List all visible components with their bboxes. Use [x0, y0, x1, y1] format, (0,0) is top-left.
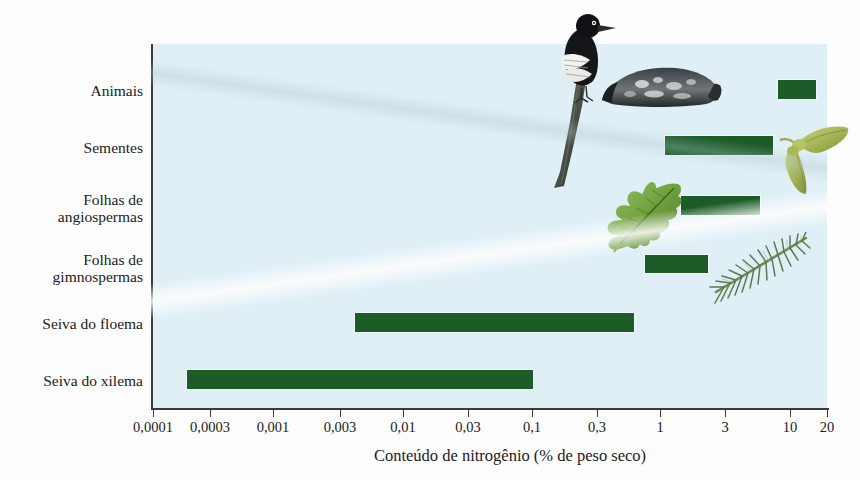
xtick-mark-9	[725, 409, 726, 417]
bar-folhas-angiospermas	[681, 196, 760, 215]
xtick-label-1: 0,0003	[190, 419, 230, 436]
xtick-mark-3	[340, 409, 341, 417]
seal-illustration	[596, 56, 724, 118]
samara-illustration	[772, 112, 858, 200]
xtick-mark-11	[827, 409, 828, 417]
xtick-mark-10	[790, 409, 791, 417]
xtick-label-8: 1	[656, 419, 663, 436]
xtick-mark-8	[660, 409, 661, 417]
xtick-label-10: 10	[783, 419, 798, 436]
bar-sementes	[665, 136, 773, 155]
xtick-label-9: 3	[721, 419, 728, 436]
xtick-label-2: 0,001	[257, 419, 290, 436]
bar-seiva-xilema	[187, 370, 533, 389]
xtick-mark-7	[597, 409, 598, 417]
x-axis-title: Conteúdo de nitrogênio (% de peso seco)	[0, 446, 860, 466]
ylabel-folhas-gimnospermas: Folhas de gimnospermas	[53, 251, 143, 286]
xtick-label-3: 0,003	[324, 419, 357, 436]
ylabel-seiva-xilema: Seiva do xilema	[43, 372, 143, 389]
xtick-label-4: 0,01	[390, 419, 415, 436]
xtick-label-0: 0,0001	[133, 419, 173, 436]
xtick-mark-2	[273, 409, 274, 417]
ylabel-seiva-floema: Seiva do floema	[42, 315, 143, 332]
xtick-mark-6	[532, 409, 533, 417]
bar-seiva-floema	[355, 313, 634, 332]
xtick-mark-0	[153, 409, 154, 417]
xtick-label-6: 0,1	[523, 419, 541, 436]
xtick-mark-5	[468, 409, 469, 417]
plot-area	[151, 44, 827, 409]
oak-leaf-illustration	[586, 178, 686, 254]
xtick-label-7: 0,3	[588, 419, 606, 436]
xtick-label-5: 0,03	[455, 419, 480, 436]
xtick-mark-1	[210, 409, 211, 417]
conifer-sprig-illustration	[698, 232, 814, 304]
x-axis-title-text: Conteúdo de nitrogênio (% de peso seco)	[214, 446, 646, 465]
ylabel-sementes: Sementes	[84, 139, 143, 156]
x-axis-line	[151, 408, 829, 410]
bar-animais	[778, 80, 816, 99]
nitrogen-content-chart: Animais Sementes Folhas de angiospermas …	[0, 0, 860, 480]
ylabel-animais: Animais	[90, 82, 143, 99]
xtick-mark-4	[403, 409, 404, 417]
ylabel-folhas-angiospermas: Folhas de angiospermas	[58, 191, 143, 226]
xtick-label-11: 20	[820, 419, 835, 436]
